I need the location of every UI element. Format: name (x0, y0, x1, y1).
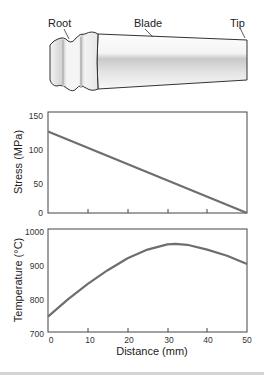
temperature-ytick: 900 (30, 261, 44, 271)
temperature-y-axis-label: Temperature (°C) (12, 238, 24, 322)
temperature-ytick: 1000 (25, 227, 44, 237)
blade-label: Blade (134, 17, 162, 29)
temperature-ytick: 700 (30, 329, 44, 339)
temperature-xtick: 30 (164, 335, 174, 345)
stress-chart: 150 100 50 0 Stress (MPa) (12, 111, 247, 218)
figure: Root Blade Tip 150 100 50 0 Stress (MPa)… (0, 0, 264, 375)
temperature-chart: 1000 900 800 700 0 10 20 30 40 50 Temper… (12, 227, 252, 357)
temperature-ytick: 800 (30, 295, 44, 305)
stress-ytick: 150 (29, 111, 43, 121)
stress-plot-frame (48, 112, 247, 213)
blade-diagram: Root Blade Tip (48, 17, 247, 91)
root-label: Root (48, 17, 71, 29)
temperature-xtick: 50 (242, 335, 252, 345)
root-section (50, 32, 98, 91)
stress-x-ticks (88, 209, 207, 213)
temperature-plot-frame (48, 229, 247, 332)
temperature-line (48, 244, 247, 317)
stress-ytick: 0 (38, 208, 43, 218)
stress-ytick: 100 (29, 145, 43, 155)
stress-y-axis-label: Stress (MPa) (12, 130, 24, 194)
temperature-x-ticks (88, 328, 207, 332)
temperature-xtick: 20 (124, 335, 134, 345)
stress-ytick: 50 (34, 179, 44, 189)
temperature-xtick: 40 (203, 335, 213, 345)
temperature-xtick: 10 (85, 335, 95, 345)
x-axis-label: Distance (mm) (116, 345, 188, 357)
root-leader (64, 29, 69, 39)
blade-body (97, 34, 247, 89)
tip-leader (240, 28, 245, 38)
tip-label: Tip (230, 17, 245, 29)
stress-line (48, 132, 247, 214)
temperature-xtick: 0 (49, 335, 54, 345)
